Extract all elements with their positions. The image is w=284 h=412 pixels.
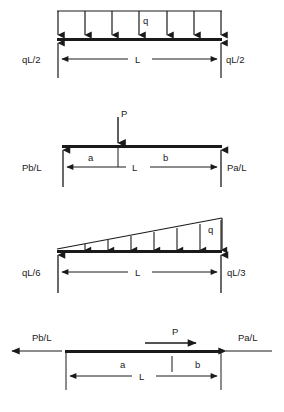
right-reaction-label: Pa/L [227, 162, 247, 173]
triangular-load-arrows [85, 220, 221, 250]
left-reaction-label: Pb/L [22, 162, 42, 173]
right-reaction-label: qL/2 [226, 54, 245, 65]
beam [65, 350, 222, 353]
span-label: L [135, 54, 140, 65]
span-label: L [139, 371, 144, 382]
segment-a-label: a [120, 359, 126, 370]
segment-b-label: b [195, 359, 200, 370]
span-label: L [132, 162, 137, 173]
figure-uniform-distributed-load: q qL/2 qL/2 L [0, 0, 284, 105]
left-reaction-label: qL/6 [22, 267, 41, 278]
beam [62, 145, 222, 148]
figure-vertical-point-load: P Pb/L Pa/L a b L [0, 105, 284, 205]
span-label: L [135, 267, 140, 278]
segment-a-label: a [88, 152, 94, 163]
load-label-p: P [121, 108, 127, 119]
right-reaction-label: Pa/L [238, 332, 258, 343]
beam-diagrams-page: q qL/2 qL/2 L P [0, 0, 284, 412]
load-label-q: q [208, 224, 213, 235]
left-reaction-label: Pb/L [32, 332, 52, 343]
beam [57, 250, 222, 253]
segment-b-label: b [163, 152, 168, 163]
beam [57, 38, 222, 41]
figure-triangular-distributed-load: q qL/6 qL/3 L [0, 205, 284, 310]
left-reaction-label: qL/2 [22, 54, 41, 65]
load-label-p: P [172, 326, 178, 337]
load-label-q: q [143, 15, 148, 26]
distributed-load-arrows [58, 11, 221, 35]
triangular-load-slope-line [57, 218, 222, 249]
figure-axial-point-load: P Pb/L Pa/L a b L [0, 310, 284, 412]
right-reaction-label: qL/3 [227, 267, 246, 278]
